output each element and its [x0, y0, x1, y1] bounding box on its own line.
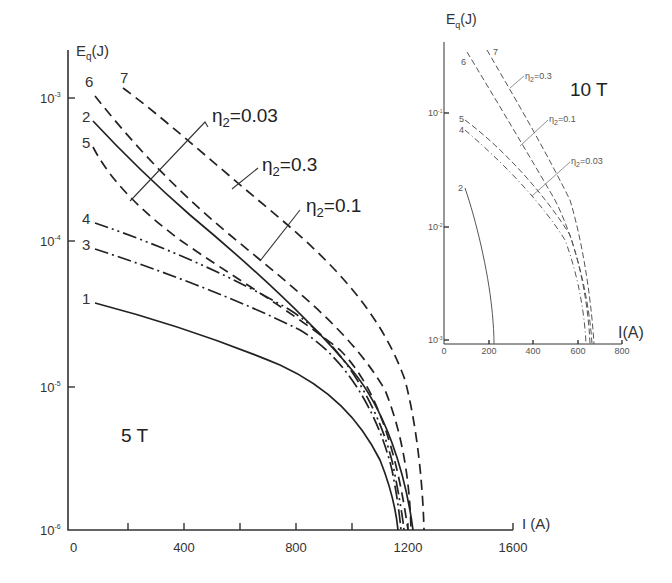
- field-label: 5 T: [121, 425, 149, 446]
- inset-xtick-label: 600: [570, 346, 585, 356]
- inset-curve-label-4: 4: [459, 125, 464, 135]
- eta-label-0.03: η2=0.03: [212, 105, 278, 130]
- inset-curve-label-7: 7: [493, 47, 498, 57]
- y-axis-label: Eq(J): [76, 42, 109, 62]
- xtick-label: 0: [70, 540, 77, 555]
- inset-eta-0.03-leader: [532, 162, 570, 196]
- eta-label-0.3: η2=0.3: [262, 154, 317, 179]
- eta-0.3-leader: [232, 168, 258, 189]
- inset-y-axis-label: Eq(J): [446, 11, 477, 30]
- ytick-label: 10-3: [40, 91, 61, 106]
- xtick-label: 800: [285, 540, 307, 555]
- curve-label-3: 3: [82, 236, 90, 253]
- inset-x-axis-label: I(A): [618, 324, 644, 341]
- inset-curve-2: [465, 188, 494, 344]
- inset-ytick-label: 10-2: [428, 222, 443, 232]
- curve-label-7: 7: [120, 69, 128, 86]
- inset-ytick-label: 10-3: [428, 335, 443, 345]
- eta-0.03-leader: [130, 122, 208, 201]
- eta-label-0.1: η2=0.1: [306, 195, 361, 220]
- inset-xtick-label: 800: [614, 346, 629, 356]
- inset-xtick-label: 200: [481, 346, 496, 356]
- main-axes: [68, 50, 513, 530]
- eta-0.1-leader: [260, 210, 300, 261]
- inset-curve-label-2: 2: [458, 183, 463, 193]
- main-chart: 10-3 10-4 10-5 10-6 0 400 800 1200 1600 …: [40, 42, 550, 555]
- curve-label-1: 1: [82, 290, 90, 307]
- inset-curve-4: [465, 130, 586, 344]
- ytick-label: 10-6: [40, 523, 61, 538]
- inset-eta-label-0.1: η2=0.1: [549, 114, 576, 126]
- chart-canvas: 10-3 10-4 10-5 10-6 0 400 800 1200 1600 …: [0, 0, 672, 583]
- inset-curve-label-5: 5: [459, 114, 464, 124]
- curve-2: [93, 121, 413, 530]
- curve-label-2: 2: [82, 108, 90, 125]
- xtick-label: 1200: [394, 540, 423, 555]
- curve-3: [95, 249, 401, 530]
- curve-7: [123, 88, 424, 530]
- inset-eta-label-0.3: η2=0.3: [525, 71, 552, 83]
- ytick-label: 10-4: [40, 234, 61, 249]
- inset-xtick-label: 400: [525, 346, 540, 356]
- inset-curve-label-6: 6: [461, 57, 466, 67]
- inset-field-label: 10 T: [570, 79, 608, 100]
- inset-chart: 10-1 10-2 10-3 0 200 400 600 800 Eq(J) I…: [428, 11, 644, 356]
- inset-ytick-label: 10-1: [428, 108, 443, 118]
- curve-label-5: 5: [82, 134, 90, 151]
- curve-6: [95, 96, 411, 530]
- inset-eta-0.1-leader: [520, 120, 548, 146]
- curve-label-6: 6: [85, 73, 93, 90]
- ytick-label: 10-5: [40, 380, 61, 395]
- xtick-label: 1600: [499, 540, 528, 555]
- inset-xtick-label: 0: [441, 346, 446, 356]
- inset-eta-0.3-leader: [510, 76, 524, 88]
- curve-1: [95, 303, 398, 530]
- curve-label-4: 4: [82, 210, 90, 227]
- xtick-label: 400: [173, 540, 195, 555]
- x-axis-label: I (A): [522, 515, 550, 532]
- inset-eta-label-0.03: η2=0.03: [571, 156, 603, 168]
